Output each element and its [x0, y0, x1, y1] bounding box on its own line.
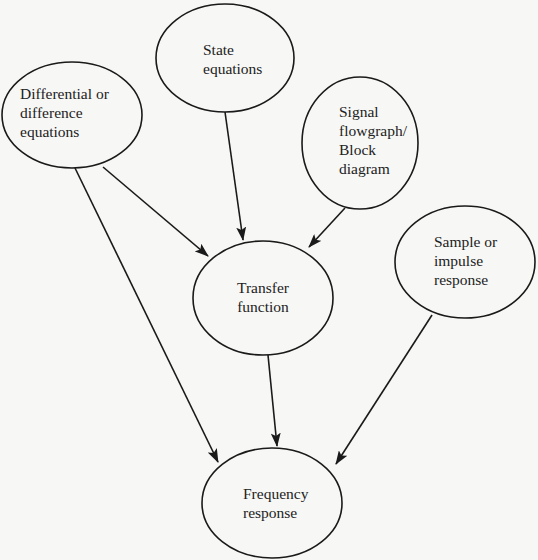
node-label-line: Sample or	[434, 232, 497, 251]
node-label-line: Transfer	[213, 278, 313, 297]
node-label-line: difference	[20, 103, 109, 122]
node-label-line: State	[203, 40, 262, 59]
node-transfer-label: Transferfunction	[213, 278, 313, 316]
arrow-state-to-transfer	[225, 112, 243, 240]
node-label-line: function	[213, 297, 313, 316]
node-label-line: equations	[20, 122, 109, 141]
node-label-line: response	[434, 270, 497, 289]
arrow-differential-to-transfer	[103, 167, 208, 256]
node-label-line: equations	[203, 59, 262, 78]
node-label-line: Differential or	[20, 84, 109, 103]
node-differential-label: Differential ordifferenceequations	[20, 84, 109, 141]
node-label-line: Block	[339, 140, 407, 159]
node-label-line: response	[243, 503, 308, 522]
node-label-line: diagram	[339, 159, 407, 178]
arrow-transfer-to-frequency	[268, 355, 277, 446]
node-label-line: Frequency	[243, 484, 308, 503]
arrow-signal-to-transfer	[309, 208, 345, 247]
node-label-line: flowgraph/	[339, 121, 407, 140]
node-state-label: Stateequations	[203, 40, 262, 78]
arrow-sample-to-frequency	[336, 315, 432, 464]
node-signal-label: Signalflowgraph/Blockdiagram	[339, 102, 407, 178]
node-frequency-label: Frequencyresponse	[243, 484, 308, 522]
node-label-line: Signal	[339, 102, 407, 121]
node-label-line: impulse	[434, 251, 497, 270]
node-sample-label: Sample orimpulseresponse	[434, 232, 497, 289]
